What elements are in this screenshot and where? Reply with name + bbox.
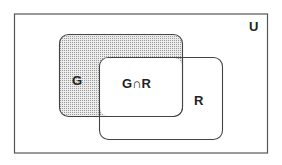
set-r-label: R [194, 93, 204, 108]
intersection-label: G∩R [122, 76, 152, 91]
set-g-label: G [72, 73, 82, 88]
venn-diagram: U G G∩R R [0, 0, 282, 165]
universe-label: U [249, 19, 258, 34]
